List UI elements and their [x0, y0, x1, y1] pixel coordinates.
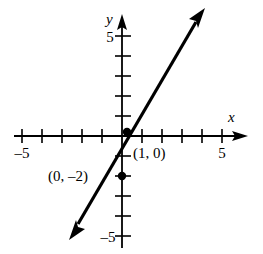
y-tick-label-negative-5: –5 [100, 229, 116, 245]
point-label-1-0: (1, 0) [133, 145, 166, 162]
line-arrowhead-upper [189, 8, 205, 28]
point-marker-1-0 [123, 128, 131, 136]
x-axis-label: x [227, 109, 235, 125]
graph-figure: x y –5 5 5 –5 (1, 0) (0, –2) [0, 0, 263, 254]
y-axis-label: y [104, 11, 113, 27]
plotted-line [78, 22, 196, 224]
point-marker-0-minus2 [118, 172, 126, 180]
y-tick-label-positive-5: 5 [106, 29, 114, 45]
x-tick-label-negative-5: –5 [14, 145, 30, 161]
coordinate-plane: x y –5 5 5 –5 (1, 0) (0, –2) [0, 0, 263, 254]
x-tick-label-positive-5: 5 [218, 145, 226, 161]
point-label-0-minus2: (0, –2) [48, 168, 88, 185]
